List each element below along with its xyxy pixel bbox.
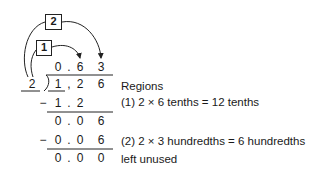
divisor: 2 <box>26 78 38 90</box>
step-2-label: 2 <box>45 14 62 30</box>
minus-sign: − <box>37 134 49 146</box>
notes-heading: Regions <box>121 80 163 92</box>
digit: 0 <box>95 152 107 164</box>
digit: 0 <box>74 115 86 127</box>
dividend-tenths: 2 <box>74 78 86 90</box>
digit: 0 <box>74 134 86 146</box>
note-step-1: (1) 2 × 6 tenths = 12 tenths <box>121 96 259 108</box>
digit: 6 <box>95 115 107 127</box>
note-step-2: (2) 2 × 3 hundredths = 6 hundredths <box>121 135 305 147</box>
digit: 6 <box>95 134 107 146</box>
note-remainder: left unused <box>121 153 177 165</box>
minus-sign: − <box>37 97 49 109</box>
step-1-label: 1 <box>36 40 52 56</box>
digit: 2 <box>74 97 86 109</box>
digit: 0 <box>74 152 86 164</box>
quotient-hundredths: 3 <box>95 61 107 73</box>
quotient-tenths: 6 <box>74 61 86 73</box>
dividend-hundredths: 6 <box>95 78 107 90</box>
